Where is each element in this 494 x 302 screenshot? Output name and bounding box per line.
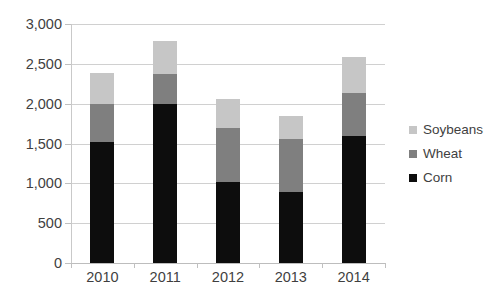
y-axis-label: 1,000 xyxy=(26,176,62,191)
y-axis-label: 2,000 xyxy=(26,96,62,111)
y-axis-tick xyxy=(65,144,71,145)
y-axis-tick xyxy=(65,223,71,224)
bar-group-2010[interactable] xyxy=(90,24,114,263)
y-axis-label: 2,500 xyxy=(26,57,62,72)
x-axis-label-2014: 2014 xyxy=(324,270,384,286)
legend-item-corn[interactable]: Corn xyxy=(409,166,494,190)
x-axis-tick xyxy=(197,263,198,268)
bar-segment-soybeans-2013[interactable] xyxy=(279,116,303,140)
bar-segment-corn-2011[interactable] xyxy=(153,104,177,263)
y-axis-label: 500 xyxy=(38,216,62,231)
plot-area xyxy=(71,24,385,263)
y-axis-tick xyxy=(65,24,71,25)
x-axis-tick xyxy=(385,263,386,268)
y-axis-label: 0 xyxy=(54,256,62,271)
bar-group-2013[interactable] xyxy=(279,24,303,263)
y-axis-tick xyxy=(65,183,71,184)
bar-segment-soybeans-2012[interactable] xyxy=(216,99,240,128)
bar-segment-corn-2013[interactable] xyxy=(279,192,303,263)
bar-group-2011[interactable] xyxy=(153,24,177,263)
y-axis-label: 3,000 xyxy=(26,17,62,32)
x-axis-line xyxy=(71,263,385,264)
bar-segment-wheat-2011[interactable] xyxy=(153,74,177,103)
y-axis-tick xyxy=(65,64,71,65)
legend-label: Soybeans xyxy=(423,123,483,137)
stacked-bar-chart: 05001,0001,5002,0002,5003,000 2010201120… xyxy=(0,0,494,302)
bar-segment-wheat-2012[interactable] xyxy=(216,128,240,182)
legend-swatch-corn-icon xyxy=(409,174,417,182)
x-axis-label-2013: 2013 xyxy=(261,270,321,286)
y-axis-label: 1,500 xyxy=(26,136,62,151)
bar-segment-soybeans-2010[interactable] xyxy=(90,73,114,104)
bar-segment-wheat-2010[interactable] xyxy=(90,104,114,142)
chart-legend: SoybeansWheatCorn xyxy=(409,118,494,190)
bar-segment-corn-2010[interactable] xyxy=(90,142,114,263)
bar-segment-wheat-2014[interactable] xyxy=(342,93,366,136)
x-axis-tick xyxy=(259,263,260,268)
bar-group-2014[interactable] xyxy=(342,24,366,263)
x-axis-label-2012: 2012 xyxy=(198,270,258,286)
legend-swatch-wheat-icon xyxy=(409,150,417,158)
x-axis-tick xyxy=(322,263,323,268)
legend-item-wheat[interactable]: Wheat xyxy=(409,142,494,166)
y-axis-line xyxy=(71,24,72,264)
y-axis-tick xyxy=(65,104,71,105)
bar-segment-corn-2014[interactable] xyxy=(342,136,366,263)
x-axis-label-2011: 2011 xyxy=(135,270,195,286)
x-axis-tick xyxy=(71,263,72,268)
bar-segment-soybeans-2011[interactable] xyxy=(153,41,177,74)
legend-label: Wheat xyxy=(423,147,462,161)
bar-segment-wheat-2013[interactable] xyxy=(279,139,303,192)
bar-segment-corn-2012[interactable] xyxy=(216,182,240,263)
y-axis-labels: 05001,0001,5002,0002,5003,000 xyxy=(0,24,62,263)
legend-label: Corn xyxy=(423,171,452,185)
legend-swatch-soybeans-icon xyxy=(409,126,417,134)
bar-segment-soybeans-2014[interactable] xyxy=(342,57,366,93)
bar-group-2012[interactable] xyxy=(216,24,240,263)
x-axis-tick xyxy=(134,263,135,268)
x-axis-label-2010: 2010 xyxy=(72,270,132,286)
legend-item-soybeans[interactable]: Soybeans xyxy=(409,118,494,142)
